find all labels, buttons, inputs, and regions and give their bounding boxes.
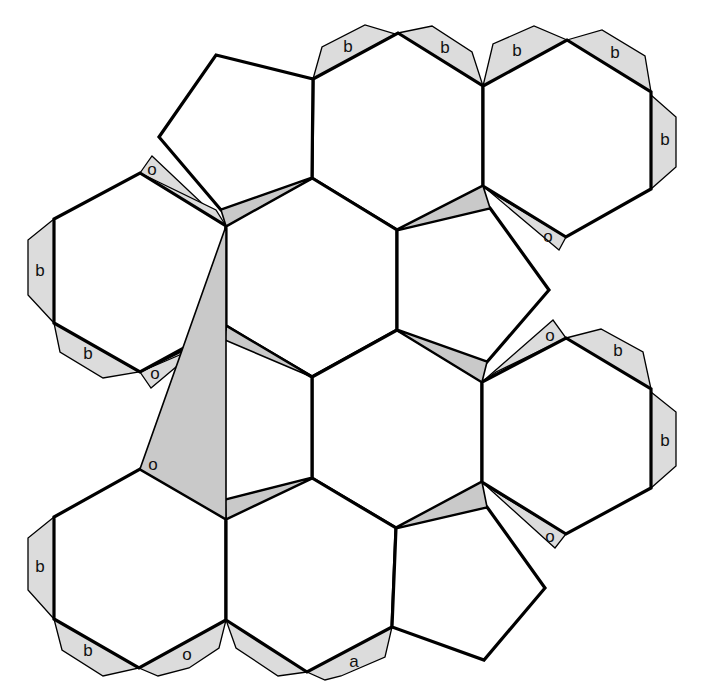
tab-label-b: b xyxy=(83,344,92,363)
polyhedron-net-diagram: bbbbbobbooobboobboa xyxy=(0,0,706,699)
tab-label-a: a xyxy=(349,652,359,671)
tab-label-o: o xyxy=(148,455,157,474)
tab-label-b: b xyxy=(343,37,352,56)
tab-label-b: b xyxy=(613,341,622,360)
tab-label-b: b xyxy=(660,431,669,450)
tab-label-b: b xyxy=(83,641,92,660)
tab-label-b: b xyxy=(512,41,521,60)
tab-label-o: o xyxy=(543,227,552,246)
tab-label-o: o xyxy=(182,645,191,664)
tab-label-b: b xyxy=(440,38,449,57)
pent-bottom-right xyxy=(392,507,545,660)
tab-label-o: o xyxy=(545,326,554,345)
faces xyxy=(54,33,651,672)
tab-label-o: o xyxy=(147,160,156,179)
tab-label-b: b xyxy=(610,43,619,62)
tab-label-b: b xyxy=(35,261,44,280)
tab-label-b: b xyxy=(35,557,44,576)
tab-label-b: b xyxy=(660,130,669,149)
tab-label-o: o xyxy=(150,364,159,383)
tab-label-o: o xyxy=(545,527,554,546)
